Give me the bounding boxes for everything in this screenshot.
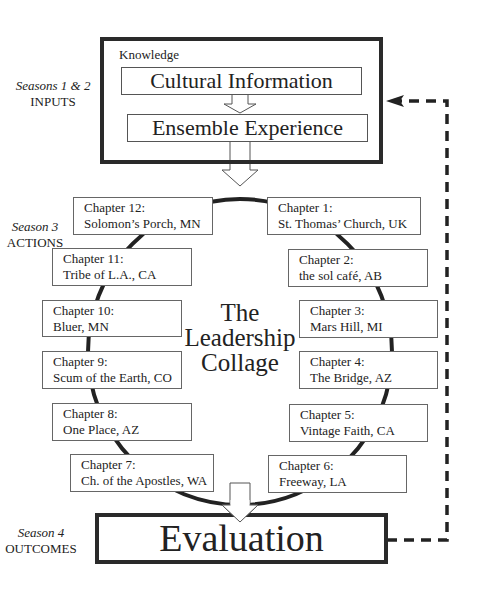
chapter-title: Chapter 10: [53,303,181,319]
chapter-name: St. Thomas’ Church, UK [278,216,420,232]
outcomes-season: Season 4 [18,525,65,540]
chapter-title: Chapter 6: [279,458,406,474]
chapter-name: The Bridge, AZ [310,370,437,386]
chapter-8-box: Chapter 8: One Place, AZ [52,403,192,441]
chapter-12-box: Chapter 12: Solomon’s Porch, MN [73,197,213,235]
chapter-title: Chapter 12: [84,200,212,216]
chapter-11-box: Chapter 11: Tribe of L.A., CA [52,248,192,286]
chapter-name: the sol café, AB [299,268,427,284]
chapter-title: Chapter 11: [63,251,191,267]
chapter-title: Chapter 2: [299,252,427,268]
chapter-3-box: Chapter 3: Mars Hill, MI [299,300,438,338]
chapter-name: Freeway, LA [279,474,406,490]
inputs-season: Seasons 1 & 2 [16,78,91,93]
chapter-5-box: Chapter 5: Vintage Faith, CA [289,404,428,442]
knowledge-title: Knowledge [119,47,179,63]
collage-title-line: Collage [180,350,300,375]
chapter-name: Ch. of the Apostles, WA [81,473,213,489]
chapter-title: Chapter 9: [53,354,181,370]
actions-label: Season 3 ACTIONS [2,219,68,251]
evaluation-box: Evaluation [95,513,388,564]
chapter-name: Scum of the Earth, CO [53,370,181,386]
chapter-title: Chapter 3: [310,303,437,319]
outcomes-phase: OUTCOMES [5,541,77,556]
chapter-name: Tribe of L.A., CA [63,267,191,283]
cultural-information-box: Cultural Information [121,67,362,95]
chapter-1-box: Chapter 1: St. Thomas’ Church, UK [267,197,421,235]
chapter-4-box: Chapter 4: The Bridge, AZ [299,351,438,389]
chapter-7-box: Chapter 7: Ch. of the Apostles, WA [70,454,214,492]
chapter-name: Mars Hill, MI [310,319,437,335]
chapter-2-box: Chapter 2: the sol café, AB [288,249,428,287]
inputs-phase: INPUTS [30,94,76,109]
chapter-10-box: Chapter 10: Bluer, MN [42,300,182,337]
ensemble-experience-box: Ensemble Experience [127,114,368,142]
collage-title-line: The [180,300,300,325]
chapter-title: Chapter 4: [310,354,437,370]
chapter-name: Vintage Faith, CA [300,423,427,439]
collage-title-line: Leadership [180,325,300,350]
chapter-name: One Place, AZ [63,422,191,438]
chapter-title: Chapter 7: [81,457,213,473]
chapter-name: Bluer, MN [53,319,181,335]
chapter-9-box: Chapter 9: Scum of the Earth, CO [42,351,182,389]
inputs-label: Seasons 1 & 2 INPUTS [8,78,98,110]
chapter-title: Chapter 8: [63,406,191,422]
collage-title: The Leadership Collage [180,300,300,375]
actions-season: Season 3 [12,219,59,234]
outcomes-label: Season 4 OUTCOMES [2,525,80,557]
chapter-name: Solomon’s Porch, MN [84,216,212,232]
chapter-title: Chapter 5: [300,407,427,423]
chapter-title: Chapter 1: [278,200,420,216]
chapter-6-box: Chapter 6: Freeway, LA [268,455,407,493]
